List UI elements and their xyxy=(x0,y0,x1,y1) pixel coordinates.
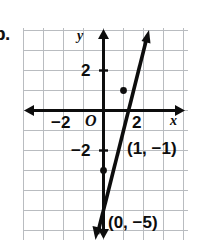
y-axis-label: y xyxy=(77,29,83,43)
part-label: b. xyxy=(0,24,10,43)
previous-figure-grid xyxy=(55,0,201,18)
x-axis-label: x xyxy=(170,114,177,128)
coordinate-graph: y x O −2 2 2 −2 (1, −1) (0, −5) xyxy=(23,28,188,240)
point-label-0-neg5: (0, −5) xyxy=(108,214,158,231)
y-tick-label-neg2: −2 xyxy=(71,142,90,159)
origin-label: O xyxy=(85,113,97,129)
point-label-1-neg1: (1, −1) xyxy=(127,140,177,157)
graph-svg xyxy=(23,28,188,240)
data-point-0-neg5 xyxy=(100,167,107,174)
data-point-1-neg1 xyxy=(120,87,127,94)
y-tick-label-2: 2 xyxy=(81,62,90,79)
previous-figure-strip xyxy=(55,0,201,18)
figure-stage: b. xyxy=(0,0,201,242)
x-tick-label-2: 2 xyxy=(132,114,141,131)
x-tick-label-neg2: −2 xyxy=(51,114,70,131)
